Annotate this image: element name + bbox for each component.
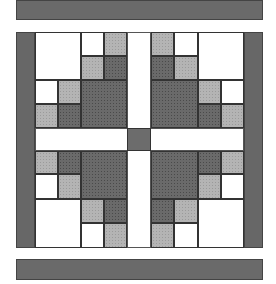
- bottom-left-cell-dark: [104, 199, 127, 223]
- top-left-cell-white: [35, 80, 58, 104]
- bottom-right-large-dark-square: [151, 151, 198, 199]
- top-right-large-white-square: [198, 32, 244, 80]
- bottom-left-cell-light: [104, 223, 127, 248]
- bottom-right-large-white-square: [198, 199, 244, 248]
- bottom-right-cell-light: [198, 174, 221, 199]
- top-left-cell-light: [58, 80, 81, 104]
- top-right-cell-light: [221, 104, 244, 128]
- bottom-right-cell-dark: [198, 151, 221, 174]
- bottom-right-cell-light: [174, 199, 198, 223]
- bottom-right-cell-light: [151, 223, 174, 248]
- bottom-right-cell-light: [221, 151, 244, 174]
- top-right-cell-light: [151, 32, 174, 56]
- bottom-left-cell-light: [58, 174, 81, 199]
- bottom-left-cell-light: [81, 199, 104, 223]
- bottom-right-cell-white: [221, 174, 244, 199]
- top-left-large-white-square: [35, 32, 81, 80]
- bottom-left-cell-white: [35, 174, 58, 199]
- bottom-left-cell-white: [81, 223, 104, 248]
- top-left-cell-dark: [104, 56, 127, 80]
- top-left-cell-white: [81, 32, 104, 56]
- right-border-strip: [244, 32, 263, 248]
- bottom-right-cell-white: [174, 223, 198, 248]
- bottom-left-large-dark-square: [81, 151, 127, 199]
- top-border-bar: [16, 0, 263, 20]
- top-left-cell-light: [104, 32, 127, 56]
- top-left-cell-light: [81, 56, 104, 80]
- top-right-cell-light: [174, 56, 198, 80]
- center-square: [127, 128, 151, 151]
- bottom-right-cell-dark: [151, 199, 174, 223]
- bottom-border-bar: [16, 259, 263, 280]
- top-right-large-dark-square: [151, 80, 198, 128]
- top-left-large-dark-square: [81, 80, 127, 128]
- top-left-cell-dark: [58, 104, 81, 128]
- top-right-cell-dark: [198, 104, 221, 128]
- bottom-left-cell-light: [35, 151, 58, 174]
- top-right-cell-white: [221, 80, 244, 104]
- top-right-cell-dark: [151, 56, 174, 80]
- top-right-cell-white: [174, 32, 198, 56]
- top-right-cell-light: [198, 80, 221, 104]
- bottom-left-cell-dark: [58, 151, 81, 174]
- bottom-left-large-white-square: [35, 199, 81, 248]
- left-border-strip: [16, 32, 35, 248]
- top-left-cell-light: [35, 104, 58, 128]
